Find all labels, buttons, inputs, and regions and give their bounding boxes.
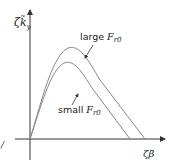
label-large: large Fr0 bbox=[80, 31, 122, 44]
curve-large bbox=[30, 47, 145, 139]
curve-small bbox=[30, 62, 130, 139]
label-small: small Fr0 bbox=[58, 104, 101, 117]
y-axis-label: ζk̃y bbox=[14, 15, 32, 31]
diagram-canvas: ζk̃y ζβ̄ large Fr0 small Fr0 / bbox=[0, 0, 174, 166]
x-axis-label: ζβ̄ bbox=[143, 148, 154, 159]
partial-mark: / bbox=[0, 140, 5, 150]
arrow-large bbox=[85, 45, 93, 58]
